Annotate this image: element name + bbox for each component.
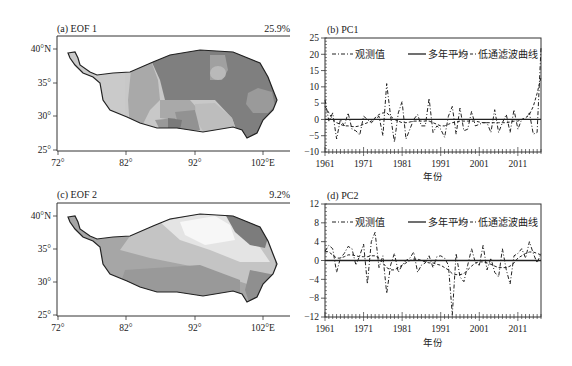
panel-d-y-ticks: 12840−4−8−12	[304, 199, 327, 322]
y-tick-label: 0	[314, 115, 319, 125]
y-tick-label: 10	[310, 82, 320, 92]
panel-d-pc2-chart: (d) PC2 12840−4−8−12 1961197119811991200…	[304, 190, 541, 348]
x-tick-label: 1971	[354, 159, 373, 169]
y-tick-label: 12	[310, 199, 320, 209]
panel-a-eof1-map: (a) EOF 1 25.9% 72° 82° 92°	[31, 23, 290, 168]
x-tick-72: 72°	[51, 158, 65, 168]
legend-observed-label: 观测值	[355, 216, 385, 228]
panel-b-y-ticks: 2520151050−5−10	[304, 33, 327, 157]
figure: (a) EOF 1 25.9% 72° 82° 92°	[0, 0, 572, 366]
y-tick-25: 25°	[38, 310, 52, 320]
x-tick-label: 1981	[393, 324, 412, 334]
x-tick-label: 1961	[316, 159, 335, 169]
x-tick-label: 1971	[354, 324, 373, 334]
y-tick-40: 40°N	[31, 44, 51, 54]
panel-b-pc1-chart: (b) PC1 2520151050−5−10 1961197119811991…	[304, 24, 541, 182]
y-tick-label: −8	[309, 293, 319, 303]
panel-c-title: (c) EOF 2	[57, 189, 97, 201]
panel-a-title: (a) EOF 1	[57, 23, 97, 35]
panel-b-legend: 观测值 多年平均 低通滤波曲线	[332, 48, 538, 60]
y-tick-40: 40°N	[31, 211, 51, 221]
x-tick-label: 2001	[470, 324, 489, 334]
legend-lowpass-label: 低通滤波曲线	[478, 216, 538, 228]
y-tick-label: −12	[304, 312, 319, 322]
panel-d-series	[325, 232, 541, 314]
x-tick-label: 1991	[431, 159, 450, 169]
x-tick-82: 82°	[119, 158, 133, 168]
x-tick-label: 1981	[393, 159, 412, 169]
series-dash-dot	[325, 48, 541, 142]
panel-d-legend: 观测值 多年平均 低通滤波曲线	[332, 216, 538, 228]
y-tick-label: 8	[314, 218, 319, 228]
panel-d-title: (d) PC2	[327, 190, 358, 202]
y-tick-35: 35°	[38, 244, 52, 254]
panel-c-eof2-map: (c) EOF 2 9.2% 72° 82° 92° 102°E 40°N 35…	[31, 189, 290, 333]
x-tick-label: 2011	[509, 159, 528, 169]
y-tick-label: −5	[309, 131, 319, 141]
panel-d-xlabel: 年份	[423, 337, 443, 348]
y-tick-30: 30°	[38, 277, 52, 287]
x-tick-label: 2011	[509, 324, 528, 334]
panel-c-shading	[60, 205, 290, 315]
x-tick-label: 1961	[316, 324, 335, 334]
y-tick-30: 30°	[38, 111, 52, 121]
panel-b-x-ticks: 196119711981199120012011	[316, 147, 542, 169]
y-tick-label: −4	[309, 275, 319, 285]
panel-b-series	[325, 48, 541, 142]
series-dashed	[325, 251, 541, 275]
y-tick-label: −10	[304, 147, 319, 157]
panel-b-title: (b) PC1	[327, 24, 358, 36]
x-tick-label: 1991	[431, 324, 450, 334]
panel-a-variance: 25.9%	[264, 23, 290, 34]
y-tick-label: 20	[310, 50, 320, 60]
y-tick-label: 0	[314, 256, 319, 266]
y-tick-label: 15	[310, 66, 320, 76]
x-tick-92: 92°	[188, 323, 202, 333]
y-tick-25: 25°	[38, 145, 52, 155]
y-tick-label: 4	[314, 237, 319, 247]
panel-d-x-ticks: 196119711981199120012011	[316, 312, 542, 334]
panel-c-variance: 9.2%	[269, 189, 290, 200]
x-tick-82: 82°	[119, 323, 133, 333]
x-tick-92: 92°	[188, 158, 202, 168]
x-tick-102: 102°E	[251, 158, 275, 168]
series-dash-dot	[325, 232, 541, 314]
x-tick-72: 72°	[51, 323, 65, 333]
x-tick-label: 2001	[470, 159, 489, 169]
y-tick-35: 35°	[38, 78, 52, 88]
y-tick-label: 25	[310, 33, 320, 43]
panel-b-xlabel: 年份	[423, 171, 443, 182]
legend-lowpass-label: 低通滤波曲线	[478, 48, 538, 60]
x-tick-102: 102°E	[251, 323, 275, 333]
y-tick-label: 5	[314, 98, 319, 108]
legend-observed-label: 观测值	[355, 48, 385, 60]
